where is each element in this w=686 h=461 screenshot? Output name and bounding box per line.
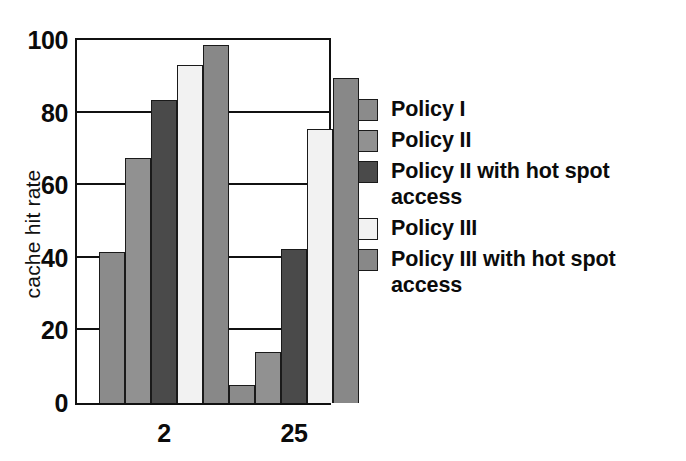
bar [203,45,229,403]
bar-chart-figure: cache hit rate 020406080100225 Policy IP… [0,0,686,461]
bar [177,65,203,403]
bar [281,249,307,403]
x-axis-tick-label: 25 [281,419,308,448]
legend-swatch-icon [356,130,378,152]
legend-swatch-icon [356,161,378,183]
legend-item-label: Policy II with hot spot access [391,158,610,210]
x-axis-tick-label: 2 [157,419,170,448]
legend-item[interactable]: Policy III [356,215,676,241]
y-axis-tick-label: 20 [41,316,68,345]
bar [151,100,177,403]
legend-item[interactable]: Policy II with hot spot access [356,158,676,210]
legend-item[interactable]: Policy I [356,96,676,122]
y-axis-tick-label: 60 [41,171,68,200]
y-axis-tick-label: 80 [41,98,68,127]
legend-swatch-icon [356,99,378,121]
bar [125,158,151,403]
legend-item-label: Policy I [391,96,465,122]
legend-item-label: Policy II [391,127,471,153]
chart-legend: Policy IPolicy IIPolicy II with hot spot… [356,96,676,303]
legend-item-label: Policy III with hot spot access [391,246,616,298]
bar-group: 2 [99,40,229,403]
bar [307,129,333,403]
bar [333,78,359,403]
legend-item[interactable]: Policy II [356,127,676,153]
y-axis-tick-label: 0 [54,389,68,418]
bar [99,252,125,403]
plot-area: 020406080100225 [75,38,331,405]
y-axis-title: cache hit rate [21,119,45,349]
y-axis-tick-label: 100 [27,26,68,55]
legend-swatch-icon [356,218,378,240]
legend-item[interactable]: Policy III with hot spot access [356,246,676,298]
legend-item-label: Policy III [391,215,477,241]
y-axis-tick-label: 40 [41,243,68,272]
bar [229,385,255,403]
legend-swatch-icon [356,249,378,271]
bar-group: 25 [229,40,359,403]
bar [255,352,281,403]
